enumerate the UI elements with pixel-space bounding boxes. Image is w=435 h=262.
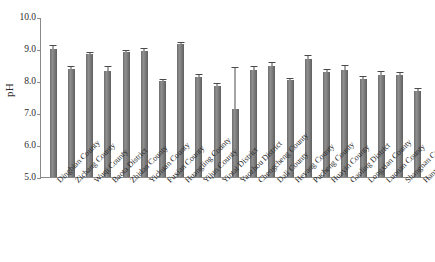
error-bar-cap (177, 42, 184, 43)
x-axis-tick: Gaoling District (349, 179, 355, 185)
x-axis-tick: Zichang County (74, 179, 80, 185)
y-axis-tick-labels: 10.09.08.07.06.05.0 (8, 0, 36, 262)
error-bar-cap (323, 69, 330, 70)
x-axis-tick: Yintai District (221, 179, 227, 185)
error-bar-cap (268, 62, 275, 63)
error-bar-cap (123, 50, 130, 51)
y-axis-tickmark (37, 114, 41, 115)
x-axis-tick: Huangling County (184, 179, 190, 185)
x-axis-tick: Yichuan County (148, 179, 154, 185)
bar-slot (44, 18, 62, 177)
x-axis-tick: Dingbian County (56, 179, 62, 185)
error-bar-cap (287, 78, 294, 79)
y-axis-tick: 6.0 (10, 141, 36, 151)
error-bar-cap (341, 65, 348, 66)
x-axis-tick: Hanyin County (422, 179, 428, 185)
x-axis-tick: Wuqi County (93, 179, 99, 185)
x-axis-tick: Zhidan County (129, 179, 135, 185)
x-axis-tick: Heyang County (294, 179, 300, 185)
error-bar-cap (305, 55, 312, 56)
error-bar (235, 68, 236, 109)
x-axis-tick: Yijun County (202, 179, 208, 185)
error-bar-cap (414, 88, 421, 89)
x-axis-tick: Luonan County (385, 179, 391, 185)
y-axis-tick: 10.0 (10, 13, 36, 23)
error-bar-cap (68, 66, 75, 67)
error-bar-cap (378, 71, 385, 72)
x-axis-tick: Chengcheng County (257, 179, 263, 185)
x-axis-tick: Fuxian County (166, 179, 172, 185)
y-axis-tick: 9.0 (10, 45, 36, 55)
error-bar-cap (250, 66, 257, 67)
error-bar-cap (214, 83, 221, 84)
error-bar-cap (195, 74, 202, 75)
x-axis-tick: Longxian County (367, 179, 373, 185)
y-axis-tick: 5.0 (10, 173, 36, 183)
error-bar-cap (396, 72, 403, 73)
error-bar-cap (50, 45, 57, 46)
x-axis-tick: Pucheng County (312, 179, 318, 185)
x-axis-tick: Shangnan County (404, 179, 410, 185)
x-axis-tick-labels: Dingbian CountyZichang CountyWuqi County… (40, 179, 430, 262)
x-axis-tick: Yaozhou District (239, 179, 245, 185)
x-axis-tick: Baota District (111, 179, 117, 185)
ph-bar-chart: pH 10.09.08.07.06.05.0 Dingbian CountyZi… (0, 0, 435, 262)
error-bar-cap (86, 52, 93, 53)
bar (50, 49, 57, 177)
y-axis-tickmark (37, 146, 41, 147)
error-bar-cap (360, 76, 367, 77)
bar-slot (62, 18, 80, 177)
x-axis-tick: Huayin County (330, 179, 336, 185)
y-axis-tickmark (37, 50, 41, 51)
y-axis-tickmark (37, 18, 41, 19)
y-axis-tick: 8.0 (10, 77, 36, 87)
x-axis-tick: Dali County (276, 179, 282, 185)
error-bar-cap (141, 48, 148, 49)
error-bar-cap (232, 67, 239, 68)
y-axis-tick: 7.0 (10, 109, 36, 119)
error-bar-cap (104, 66, 111, 67)
y-axis-tickmark (37, 82, 41, 83)
